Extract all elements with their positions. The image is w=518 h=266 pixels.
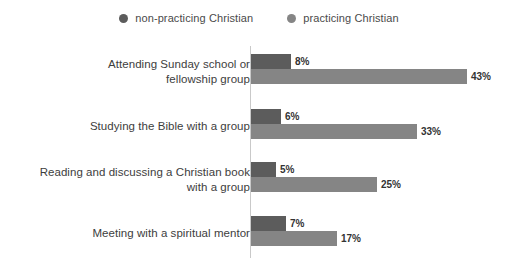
bar-row-practicing: 17%	[251, 231, 361, 246]
bar-practicing-christian	[251, 177, 377, 192]
bar-value-label: 5%	[280, 162, 294, 177]
category-label: Attending Sunday school or fellowship gr…	[20, 57, 250, 86]
category-label: Reading and discussing a Christian book …	[20, 165, 250, 194]
legend-item-practicing-christian: practicing Christian	[287, 12, 399, 24]
bar-non-practicing-christian	[251, 162, 276, 177]
category-label-line: Attending Sunday school or	[20, 57, 250, 72]
bar-row-non-practicing: 6%	[251, 109, 441, 124]
bar-row-non-practicing: 7%	[251, 216, 361, 231]
bar-practicing-christian	[251, 231, 337, 246]
bar-value-label: 43%	[471, 69, 491, 84]
bar-row-non-practicing: 8%	[251, 54, 491, 69]
bar-value-label: 25%	[381, 177, 401, 192]
chart-group: Meeting with a spiritual mentor 7% 17%	[0, 216, 518, 250]
bar-row-practicing: 33%	[251, 124, 441, 139]
bar-group: 7% 17%	[251, 216, 361, 250]
chart-group: Reading and discussing a Christian book …	[0, 162, 518, 196]
legend-label: practicing Christian	[303, 12, 399, 24]
bar-non-practicing-christian	[251, 109, 281, 124]
chart-group: Studying the Bible with a group 6% 33%	[0, 109, 518, 143]
chart-plot-area: Attending Sunday school or fellowship gr…	[0, 44, 518, 262]
bar-group: 5% 25%	[251, 162, 401, 196]
bar-value-label: 17%	[341, 231, 361, 246]
category-label: Studying the Bible with a group	[20, 119, 250, 134]
bar-row-practicing: 43%	[251, 69, 491, 84]
bar-practicing-christian	[251, 124, 417, 139]
bar-practicing-christian	[251, 69, 467, 84]
legend-label: non-practicing Christian	[135, 12, 253, 24]
bar-group: 8% 43%	[251, 54, 491, 88]
bar-non-practicing-christian	[251, 54, 291, 69]
legend-item-non-practicing-christian: non-practicing Christian	[119, 12, 253, 24]
category-label-line: Studying the Bible with a group	[20, 119, 250, 134]
bar-row-practicing: 25%	[251, 177, 401, 192]
category-label-line: Meeting with a spiritual mentor	[20, 226, 250, 241]
bar-value-label: 7%	[290, 216, 304, 231]
bar-group: 6% 33%	[251, 109, 441, 143]
category-label-line: Reading and discussing a Christian book	[20, 165, 250, 180]
category-label-line: fellowship group	[20, 71, 250, 86]
chart-legend: non-practicing Christian practicing Chri…	[0, 12, 518, 24]
circle-marker-icon	[119, 14, 128, 23]
bar-value-label: 33%	[421, 124, 441, 139]
bar-row-non-practicing: 5%	[251, 162, 401, 177]
bar-value-label: 8%	[295, 54, 309, 69]
chart-group: Attending Sunday school or fellowship gr…	[0, 54, 518, 88]
bar-value-label: 6%	[285, 109, 299, 124]
bar-non-practicing-christian	[251, 216, 286, 231]
category-label: Meeting with a spiritual mentor	[20, 226, 250, 241]
category-label-line: with a group	[20, 179, 250, 194]
circle-marker-icon	[287, 14, 296, 23]
